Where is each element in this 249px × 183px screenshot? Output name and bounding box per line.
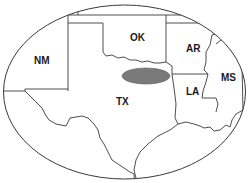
border-ar-west (172, 66, 178, 124)
border-red-river (103, 52, 172, 66)
map-container: NM OK AR TX LA MS (0, 0, 249, 183)
highlight-ellipse (122, 68, 170, 84)
state-label-tx: TX (116, 96, 129, 107)
border-ms-north (216, 40, 236, 44)
border-la-coast (178, 110, 243, 131)
region-map: NM OK AR TX LA MS (0, 0, 249, 183)
border-ok-west (68, 23, 103, 52)
state-label-la: LA (186, 86, 199, 97)
state-label-nm: NM (34, 55, 50, 66)
border-nm-south (0, 89, 68, 91)
state-label-ar: AR (186, 43, 201, 54)
state-label-ms: MS (221, 72, 236, 83)
border-tx-coast (134, 124, 178, 183)
state-label-ok: OK (130, 32, 146, 43)
map-frame-ellipse (4, 5, 246, 179)
